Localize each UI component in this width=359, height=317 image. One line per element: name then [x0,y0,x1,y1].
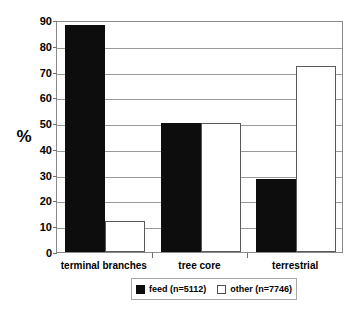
chart-legend: feed (n=5112)other (n=7746) [131,278,297,300]
y-tick-label: 30 [26,171,52,182]
x-tick-mark [247,253,248,258]
y-tick-mark [53,150,57,151]
x-tick-label: tree core [152,260,248,272]
x-tick-mark [152,253,153,258]
y-tick-label: 20 [26,196,52,207]
bar-terminal-branches-other [105,221,145,252]
bar-terminal-branches-feed [65,25,105,252]
legend-label: feed (n=5112) [149,284,206,294]
y-tick-mark [53,227,57,228]
y-tick-mark [53,201,57,202]
y-tick-label: 50 [26,119,52,130]
legend-label: other (n=7746) [230,284,292,294]
bar-terrestrial-other [296,66,336,252]
x-tick-label: terminal branches [56,260,152,272]
y-tick-mark [53,176,57,177]
bar-tree-core-other [201,123,241,252]
y-tick-label: 60 [26,93,52,104]
bar-chart: % 9080706050403020100 terminal branchest… [0,0,359,317]
plot-area [56,21,343,253]
legend-entry: feed (n=5112) [136,284,206,294]
legend-entry: other (n=7746) [217,284,292,294]
y-tick-mark [53,98,57,99]
legend-swatch-feed [136,285,145,294]
y-tick-mark [53,73,57,74]
y-tick-label: 10 [26,222,52,233]
y-axis-tick-labels: 9080706050403020100 [26,21,52,253]
x-axis-tick-labels: terminal branchestree coreterrestrial [56,260,343,274]
bar-tree-core-feed [161,123,201,252]
bar-terrestrial-feed [256,179,296,252]
y-tick-mark [53,21,57,22]
y-tick-label: 90 [26,16,52,27]
y-tick-label: 0 [26,248,52,259]
y-tick-mark [53,253,57,254]
legend-swatch-other [217,285,226,294]
x-tick-label: terrestrial [247,260,343,272]
y-tick-label: 40 [26,145,52,156]
y-tick-mark [53,124,57,125]
y-tick-mark [53,47,57,48]
y-tick-label: 70 [26,68,52,79]
y-tick-label: 80 [26,42,52,53]
